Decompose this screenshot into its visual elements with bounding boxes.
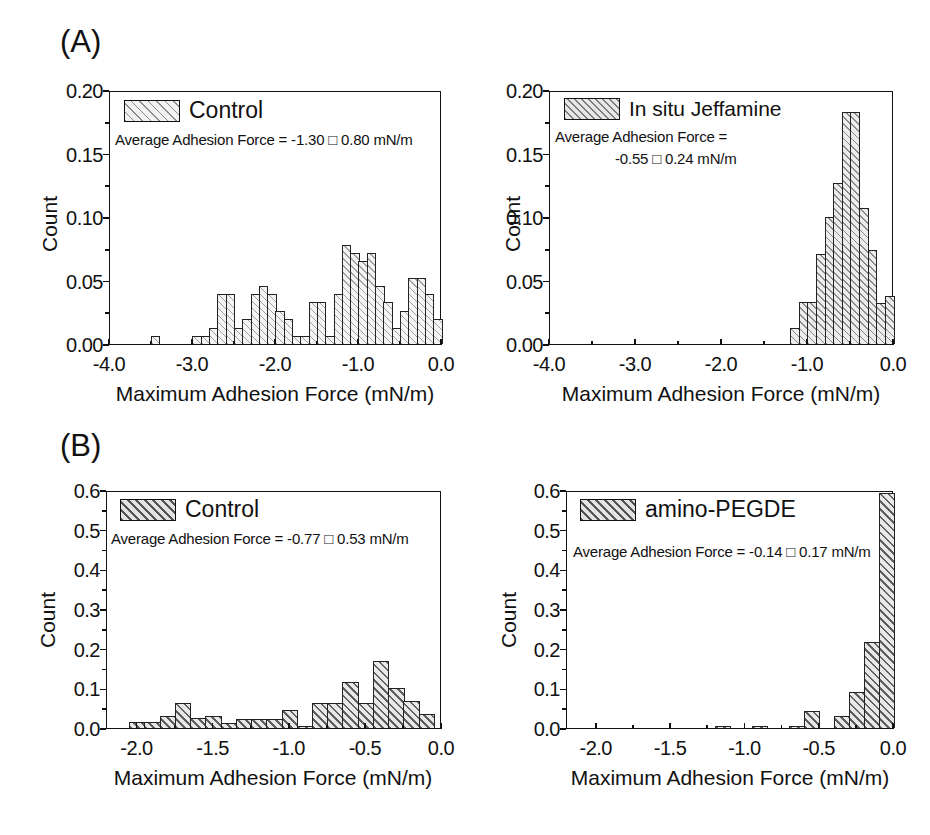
x-tick-mark-minor [399, 341, 401, 345]
x-tick-label: -2.0 [259, 353, 291, 376]
histogram-bar [342, 682, 358, 728]
annotation-mean: Average Adhesion Force = -0.14 □ 0.17 mN… [573, 543, 871, 560]
histogram-bar [266, 719, 282, 728]
histogram-bar [151, 336, 161, 344]
y-tick-mark-minor [102, 589, 106, 591]
y-tick-label: 0.20 [33, 80, 103, 103]
histogram-bar [864, 642, 880, 728]
x-tick-mark [548, 339, 550, 345]
y-tick-mark-minor [545, 185, 549, 187]
legend-swatch-icon [580, 499, 636, 521]
y-tick-mark [103, 217, 109, 219]
annotation-mean: Average Adhesion Force = [555, 128, 727, 145]
y-tick-mark-minor [105, 185, 109, 187]
x-tick-label: 0.0 [880, 737, 906, 760]
y-tick-mark-minor [562, 708, 566, 710]
x-tick-label: -1.0 [342, 353, 374, 376]
histogram-bars [567, 492, 892, 728]
y-tick-mark [100, 490, 106, 492]
y-tick-label: 0.15 [473, 143, 543, 166]
x-tick-label: -2.0 [120, 737, 152, 760]
y-tick-label: 0.15 [33, 143, 103, 166]
y-tick-label: 0.10 [473, 207, 543, 230]
y-tick-label: 0.05 [473, 270, 543, 293]
plot-frame [566, 491, 893, 729]
y-tick-mark-minor [562, 629, 566, 631]
histogram-bar [879, 493, 895, 728]
y-tick-label: 0.3 [490, 599, 560, 622]
legend-label: Control [189, 97, 263, 124]
histogram-bar [129, 722, 145, 728]
histogram-bar [297, 726, 313, 728]
y-tick-mark-minor [545, 249, 549, 251]
x-tick-mark [634, 339, 636, 345]
x-tick-mark [136, 723, 138, 729]
x-tick-mark [108, 339, 110, 345]
y-tick-mark [543, 154, 549, 156]
plot-frame [106, 491, 441, 729]
y-tick-mark [560, 530, 566, 532]
x-tick-mark-minor [174, 725, 176, 729]
y-tick-mark-minor [545, 312, 549, 314]
x-tick-label: -1.0 [272, 737, 304, 760]
y-tick-label: 0.1 [30, 678, 100, 701]
x-tick-mark-minor [632, 725, 634, 729]
histogram-bar [327, 703, 343, 728]
y-tick-label: 0.6 [490, 480, 560, 503]
y-tick-label: 0.0 [30, 718, 100, 741]
y-tick-mark [100, 689, 106, 691]
x-axis-label: Maximum Adhesion Force (mN/m) [571, 766, 890, 790]
x-tick-mark [669, 723, 671, 729]
x-tick-mark [892, 723, 894, 729]
histogram-bars [110, 92, 440, 344]
x-tick-label: -3.0 [176, 353, 208, 376]
y-tick-mark [103, 154, 109, 156]
y-tick-label: 0.2 [490, 638, 560, 661]
x-tick-label: -4.0 [533, 353, 565, 376]
histogram-bar [885, 296, 895, 344]
legend: Control [124, 97, 263, 124]
legend-label: In situ Jeffamine [629, 97, 782, 121]
y-tick-label: 0.2 [30, 638, 100, 661]
y-tick-mark-minor [562, 510, 566, 512]
x-tick-label: -1.0 [791, 353, 823, 376]
y-tick-mark-minor [562, 589, 566, 591]
chart-panel-a-right: Count 0.000.050.100.150.20 -4.0-3.0-2.0-… [465, 0, 930, 410]
histogram-bar [834, 716, 850, 728]
legend: Control [120, 496, 259, 523]
x-tick-mark [440, 339, 442, 345]
x-tick-mark-minor [591, 341, 593, 345]
x-axis-label: Maximum Adhesion Force (mN/m) [114, 766, 433, 790]
histogram-bars [107, 492, 440, 728]
legend: In situ Jeffamine [564, 97, 782, 121]
histogram-bar [221, 723, 237, 728]
y-tick-label: 0.3 [30, 599, 100, 622]
legend: amino-PEGDE [580, 496, 796, 523]
y-tick-label: 0.5 [490, 519, 560, 542]
x-tick-mark-minor [763, 341, 765, 345]
y-tick-mark [100, 649, 106, 651]
x-tick-label: 0.0 [880, 353, 906, 376]
y-tick-mark-minor [102, 510, 106, 512]
y-tick-mark-minor [545, 122, 549, 124]
y-tick-mark-minor [562, 550, 566, 552]
y-tick-label: 0.10 [33, 207, 103, 230]
x-tick-label: -0.5 [802, 737, 834, 760]
y-tick-label: 0.4 [30, 559, 100, 582]
y-tick-mark [100, 570, 106, 572]
y-tick-mark [560, 490, 566, 492]
x-tick-mark-minor [316, 341, 318, 345]
x-axis-label: Maximum Adhesion Force (mN/m) [562, 382, 881, 406]
y-tick-mark [560, 728, 566, 730]
y-tick-mark-minor [102, 550, 106, 552]
x-tick-mark-minor [781, 725, 783, 729]
x-tick-mark-minor [250, 725, 252, 729]
y-tick-mark-minor [102, 669, 106, 671]
x-tick-mark [595, 723, 597, 729]
y-tick-mark-minor [102, 708, 106, 710]
legend-swatch-icon [120, 499, 176, 521]
x-tick-mark [720, 339, 722, 345]
x-tick-mark-minor [233, 341, 235, 345]
y-tick-label: 0.20 [473, 80, 543, 103]
y-tick-mark [560, 570, 566, 572]
